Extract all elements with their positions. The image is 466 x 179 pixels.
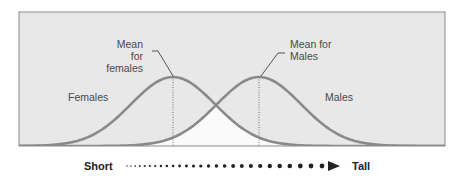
males-label: Males bbox=[325, 91, 353, 103]
distribution-diagram bbox=[0, 0, 466, 150]
axis-short-label: Short bbox=[84, 160, 113, 172]
arrowhead-icon bbox=[328, 161, 340, 171]
female-mean-label: Mean for females bbox=[103, 38, 143, 74]
height-arrow bbox=[125, 159, 340, 173]
axis-tall-label: Tall bbox=[352, 160, 370, 172]
females-label: Females bbox=[68, 91, 108, 103]
male-mean-label: Mean for Males bbox=[290, 38, 331, 62]
